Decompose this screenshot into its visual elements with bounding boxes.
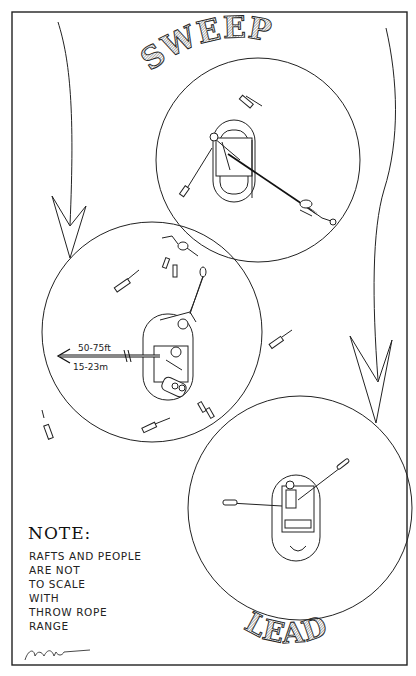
note-line: ARE NOT (29, 563, 141, 577)
sweep-title: SWEEP (134, 9, 310, 77)
swimmer-roped (300, 200, 336, 225)
lead-raft (223, 458, 350, 561)
sweep-range-circle (156, 58, 360, 262)
swimmer-upper (162, 236, 198, 256)
note-line: WITH (29, 591, 141, 605)
note-line: RANGE (29, 619, 141, 633)
artist-signature (25, 650, 90, 660)
range-label-meters: 15-23m (73, 362, 108, 372)
svg-text:SWEEP: SWEEP (134, 9, 275, 77)
swimmer-drifting (198, 402, 214, 419)
current-arrow-right-icon (350, 28, 396, 423)
sweep-raft (179, 95, 262, 202)
river-safety-diagram: SWEEP LEAD (0, 0, 416, 676)
note-line: THROW ROPE (29, 605, 141, 619)
svg-text:LEAD: LEAD (240, 606, 333, 651)
throw-rope-middle (190, 276, 203, 314)
note-line: TO SCALE (29, 577, 141, 591)
note-body: RAFTS AND PEOPLE ARE NOT TO SCALE WITH T… (29, 549, 141, 633)
current-arrow-left-icon (52, 22, 86, 258)
note-line: RAFTS AND PEOPLE (29, 549, 141, 563)
lead-title: LEAD (240, 606, 350, 651)
range-label-feet: 50-75ft (78, 343, 111, 353)
note-heading: NOTE: (28, 523, 91, 543)
